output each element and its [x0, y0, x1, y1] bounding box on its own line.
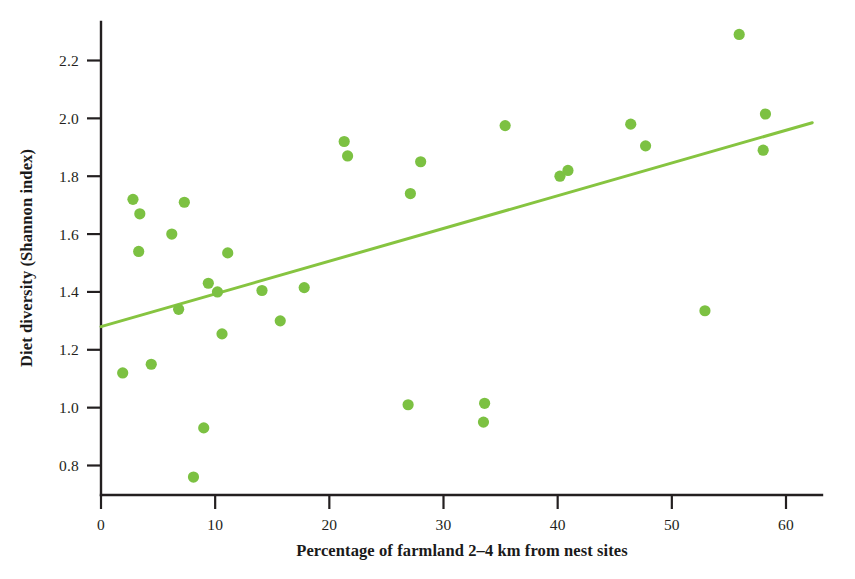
y-axis-title: Diet diversity (Shannon index) — [17, 149, 36, 367]
x-tick-label-10: 10 — [207, 516, 223, 533]
x-tick-label-50: 50 — [664, 516, 680, 533]
y-axis-ticks — [87, 61, 101, 466]
y-tick-label-1.0: 1.0 — [59, 399, 79, 416]
x-axis-ticks — [101, 495, 786, 509]
data-points-group — [117, 29, 771, 483]
data-point — [415, 156, 426, 167]
data-point — [198, 422, 209, 433]
x-tick-label-60: 60 — [778, 516, 794, 533]
x-axis-title: Percentage of farmland 2–4 km from nest … — [296, 541, 628, 560]
scatter-plot-figure: 0102030405060 0.81.01.21.41.61.82.02.2 P… — [0, 0, 855, 579]
data-point — [299, 282, 310, 293]
data-point — [166, 228, 177, 239]
data-point — [216, 328, 227, 339]
data-point — [734, 29, 745, 40]
data-point — [212, 286, 223, 297]
data-point — [640, 140, 651, 151]
y-tick-label-2.0: 2.0 — [59, 110, 79, 127]
axes-group — [101, 22, 822, 495]
data-point — [479, 398, 490, 409]
data-point — [222, 247, 233, 258]
data-point — [256, 285, 267, 296]
y-tick-label-2.2: 2.2 — [59, 52, 79, 69]
data-point — [405, 188, 416, 199]
data-point — [275, 315, 286, 326]
data-point — [758, 145, 769, 156]
y-tick-label-1.4: 1.4 — [59, 283, 79, 300]
data-point — [133, 246, 144, 257]
data-point — [562, 165, 573, 176]
data-point — [699, 305, 710, 316]
regression-trend-line — [101, 123, 812, 327]
trend-line-group — [101, 123, 812, 327]
data-point — [403, 399, 414, 410]
data-point — [173, 304, 184, 315]
data-point — [760, 108, 771, 119]
data-point — [625, 119, 636, 130]
x-tick-label-20: 20 — [321, 516, 337, 533]
y-tick-label-1.8: 1.8 — [59, 168, 79, 185]
y-axis-tick-labels: 0.81.01.21.41.61.82.02.2 — [59, 52, 79, 474]
data-point — [134, 208, 145, 219]
y-tick-label-1.6: 1.6 — [59, 226, 79, 243]
x-axis-tick-labels: 0102030405060 — [97, 516, 794, 533]
data-point — [146, 359, 157, 370]
data-point — [478, 417, 489, 428]
x-tick-label-0: 0 — [97, 516, 105, 533]
data-point — [117, 367, 128, 378]
x-tick-label-30: 30 — [436, 516, 452, 533]
x-tick-label-40: 40 — [550, 516, 566, 533]
data-point — [203, 278, 214, 289]
plot-canvas: 0102030405060 0.81.01.21.41.61.82.02.2 P… — [0, 0, 855, 579]
y-tick-label-1.2: 1.2 — [59, 341, 79, 358]
y-tick-label-0.8: 0.8 — [59, 457, 79, 474]
data-point — [127, 194, 138, 205]
data-point — [179, 197, 190, 208]
data-point — [500, 120, 511, 131]
data-point — [188, 471, 199, 482]
data-point — [342, 150, 353, 161]
data-point — [339, 136, 350, 147]
